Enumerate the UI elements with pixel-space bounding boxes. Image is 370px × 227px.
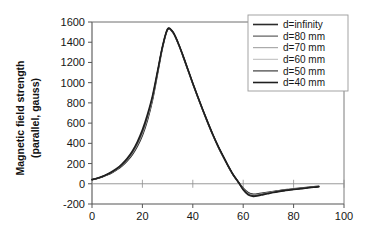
y-tick-label: 1400 (61, 36, 85, 48)
chart-svg: Magnetic field strength (parallel, gauss… (0, 0, 370, 227)
chart-figure: Magnetic field strength (parallel, gauss… (0, 0, 370, 227)
y-tick-label: -200 (63, 198, 85, 210)
y-tick-label: 1200 (61, 56, 85, 68)
x-tick-label: 100 (335, 210, 353, 222)
x-tick-label: 0 (89, 210, 95, 222)
y-tick-label: 200 (67, 158, 85, 170)
y-tick-label: 800 (67, 97, 85, 109)
legend-label: d=infinity (283, 19, 323, 30)
legend-label: d=70 mm (283, 42, 325, 53)
legend-label: d=40 mm (283, 77, 325, 88)
y-tick-label: 600 (67, 117, 85, 129)
x-tick-label: 20 (136, 210, 148, 222)
x-tick-label: 80 (287, 210, 299, 222)
y-tick-label: 1000 (61, 77, 85, 89)
y-tick-label: 400 (67, 137, 85, 149)
y-axis-title-line1: Magnetic field strength (14, 61, 26, 176)
legend-label: d=50 mm (283, 66, 325, 77)
x-tick-label: 40 (187, 210, 199, 222)
x-tick-label: 60 (237, 210, 249, 222)
y-axis-title-line2: (parallel, gauss) (29, 78, 41, 158)
y-tick-label: 0 (79, 178, 85, 190)
y-tick-label: 1600 (61, 16, 85, 28)
chart-legend: d=infinityd=80 mmd=70 mmd=60 mmd=50 mmd=… (248, 15, 348, 91)
legend-label: d=60 mm (283, 54, 325, 65)
legend-label: d=80 mm (283, 31, 325, 42)
